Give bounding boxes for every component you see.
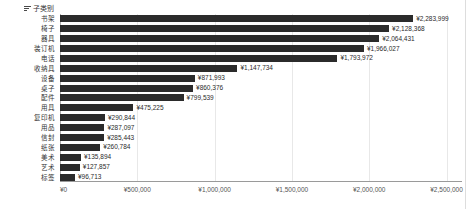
x-tick-label: ¥2,500,000 xyxy=(430,185,463,194)
bar-value-label: ¥1,147,734 xyxy=(240,64,273,72)
bar-value-label: ¥871,993 xyxy=(198,74,225,82)
field-header-label: 子类别 xyxy=(33,4,54,13)
bar-row[interactable]: ¥290,844 xyxy=(60,113,462,123)
bar-row[interactable]: ¥287,097 xyxy=(60,123,462,133)
bar[interactable] xyxy=(60,35,379,42)
category-label[interactable]: 复印机 xyxy=(34,113,55,123)
field-header[interactable]: 子类别 xyxy=(24,3,54,14)
bar-row[interactable]: ¥1,966,027 xyxy=(60,44,462,54)
bar-value-label: ¥475,225 xyxy=(136,104,163,112)
bar[interactable] xyxy=(60,15,413,22)
category-label[interactable]: 用品 xyxy=(41,123,55,133)
bar-row[interactable]: ¥285,443 xyxy=(60,133,462,143)
x-tick-label: ¥1,500,000 xyxy=(276,185,309,194)
bar[interactable] xyxy=(60,124,104,131)
x-axis-labels: ¥0¥500,000¥1,000,000¥1,500,000¥2,000,000… xyxy=(60,184,462,198)
bar-row[interactable]: ¥1,147,734 xyxy=(60,63,462,73)
bar-value-label: ¥860,376 xyxy=(196,84,223,92)
bar[interactable] xyxy=(60,25,389,32)
bar-row[interactable]: ¥135,894 xyxy=(60,152,462,162)
bar-chart-view: 子类别 书架椅子器具装订机电话收纳具设备桌子配件用具复印机用品信封纸张美术艺术标… xyxy=(0,0,469,209)
x-tick-label: ¥2,000,000 xyxy=(353,185,386,194)
category-label[interactable]: 信封 xyxy=(41,133,55,143)
category-label[interactable]: 器具 xyxy=(41,34,55,44)
bar[interactable] xyxy=(60,65,237,72)
bar-row[interactable]: ¥860,376 xyxy=(60,83,462,93)
bar-row[interactable]: ¥127,857 xyxy=(60,162,462,172)
bar-value-label: ¥96,713 xyxy=(78,173,102,181)
sort-descending-icon[interactable] xyxy=(24,5,31,12)
bar-row[interactable]: ¥799,539 xyxy=(60,93,462,103)
bar[interactable] xyxy=(60,154,81,161)
category-label[interactable]: 设备 xyxy=(41,73,55,83)
bar[interactable] xyxy=(60,114,105,121)
bar[interactable] xyxy=(60,45,364,52)
bar-value-label: ¥287,097 xyxy=(107,124,134,132)
category-label[interactable]: 标签 xyxy=(41,172,55,182)
bar[interactable] xyxy=(60,174,75,181)
category-axis: 书架椅子器具装订机电话收纳具设备桌子配件用具复印机用品信封纸张美术艺术标签 xyxy=(0,14,58,182)
bar[interactable] xyxy=(60,104,133,111)
category-label[interactable]: 桌子 xyxy=(41,83,55,93)
bar[interactable] xyxy=(60,164,80,171)
bar-value-label: ¥290,844 xyxy=(108,114,135,122)
bar[interactable] xyxy=(60,75,195,82)
bar-value-label: ¥127,857 xyxy=(83,163,110,171)
bar-row[interactable]: ¥1,793,972 xyxy=(60,54,462,64)
bar-value-label: ¥2,128,368 xyxy=(392,25,425,33)
category-label[interactable]: 配件 xyxy=(41,93,55,103)
bar-value-label: ¥260,784 xyxy=(103,143,130,151)
bar[interactable] xyxy=(60,134,104,141)
bar[interactable] xyxy=(60,94,184,101)
category-label[interactable]: 美术 xyxy=(41,152,55,162)
category-label[interactable]: 书架 xyxy=(41,14,55,24)
panel-edge xyxy=(465,0,466,209)
x-baseline xyxy=(60,181,462,182)
bar-value-label: ¥135,894 xyxy=(84,153,111,161)
bar-row[interactable]: ¥871,993 xyxy=(60,73,462,83)
bar-value-label: ¥2,064,431 xyxy=(382,35,415,43)
category-label[interactable]: 电话 xyxy=(41,54,55,64)
category-label[interactable]: 装订机 xyxy=(34,44,55,54)
bar-value-label: ¥799,539 xyxy=(187,94,214,102)
plot-inner: ¥2,283,999¥2,128,368¥2,064,431¥1,966,027… xyxy=(60,14,462,182)
category-label[interactable]: 椅子 xyxy=(41,24,55,34)
bar-value-label: ¥285,443 xyxy=(107,134,134,142)
bar[interactable] xyxy=(60,55,337,62)
bar-row[interactable]: ¥260,784 xyxy=(60,142,462,152)
x-tick-label: ¥0 xyxy=(60,185,67,194)
category-label[interactable]: 纸张 xyxy=(41,142,55,152)
category-label[interactable]: 用具 xyxy=(41,103,55,113)
bar-value-label: ¥2,283,999 xyxy=(416,15,449,23)
bar-row[interactable]: ¥2,064,431 xyxy=(60,34,462,44)
bar-value-label: ¥1,966,027 xyxy=(367,45,400,53)
bar-row[interactable]: ¥2,283,999 xyxy=(60,14,462,24)
category-label[interactable]: 收纳具 xyxy=(34,63,55,73)
category-label[interactable]: 艺术 xyxy=(41,162,55,172)
bar-row[interactable]: ¥2,128,368 xyxy=(60,24,462,34)
x-tick-label: ¥500,000 xyxy=(124,185,151,194)
bar-value-label: ¥1,793,972 xyxy=(340,54,373,62)
plot-area: ¥2,283,999¥2,128,368¥2,064,431¥1,966,027… xyxy=(60,14,462,182)
bar[interactable] xyxy=(60,85,193,92)
bar-row[interactable]: ¥475,225 xyxy=(60,103,462,113)
x-tick-label: ¥1,000,000 xyxy=(198,185,231,194)
bar[interactable] xyxy=(60,144,100,151)
